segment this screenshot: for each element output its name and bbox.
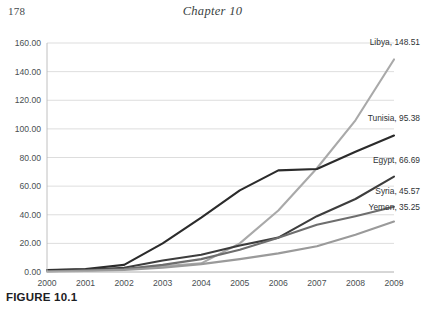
series-line-egypt <box>47 177 394 271</box>
series-end-label-syria: Syria, 45.57 <box>375 186 420 196</box>
x-tick-label: 2004 <box>192 278 211 288</box>
y-tick-label: 120.00 <box>15 95 42 105</box>
figure-caption: FIGURE 10.1 <box>6 291 77 303</box>
y-tick-label: 140.00 <box>15 67 42 77</box>
y-tick-label: 160.00 <box>15 38 42 48</box>
x-tick-label: 2008 <box>346 278 365 288</box>
y-tick-label: 100.00 <box>15 124 42 134</box>
x-axis-tick-labels: 2000200120022003200420052006200720082009 <box>37 278 403 288</box>
x-tick-label: 2007 <box>307 278 326 288</box>
y-tick-label: 0.00 <box>24 267 41 277</box>
x-tick-label: 2000 <box>37 278 56 288</box>
series-end-label-yemen: Yemen, 35.25 <box>369 202 421 212</box>
y-axis-tick-labels: 0.0020.0040.0060.0080.00100.00120.00140.… <box>15 38 42 277</box>
line-chart: 0.0020.0040.0060.0080.00100.00120.00140.… <box>0 26 425 296</box>
y-tick-label: 40.00 <box>19 210 41 220</box>
x-tick-label: 2003 <box>153 278 172 288</box>
x-tick-label: 2009 <box>384 278 403 288</box>
x-tick-label: 2002 <box>115 278 134 288</box>
figure-10-1: 0.0020.0040.0060.0080.00100.00120.00140.… <box>0 26 425 320</box>
y-tick-label: 80.00 <box>19 153 41 163</box>
y-tick-label: 20.00 <box>19 238 41 248</box>
x-tick-label: 2005 <box>230 278 249 288</box>
series-end-labels: Libya, 148.51Tunisia, 95.38Egypt, 66.69S… <box>368 37 421 211</box>
chapter-title: Chapter 10 <box>0 4 425 19</box>
series-end-label-libya: Libya, 148.51 <box>370 37 421 47</box>
x-tick-label: 2001 <box>76 278 95 288</box>
series-end-label-egypt: Egypt, 66.69 <box>373 155 420 165</box>
series-end-label-tunisia: Tunisia, 95.38 <box>368 113 421 123</box>
y-tick-label: 60.00 <box>19 181 41 191</box>
chart-canvas: 0.0020.0040.0060.0080.00100.00120.00140.… <box>0 26 425 296</box>
page-running-head: 178 Chapter 10 <box>0 4 425 24</box>
series-line-yemen <box>47 222 394 272</box>
series-lines <box>47 59 394 271</box>
x-tick-label: 2006 <box>269 278 288 288</box>
